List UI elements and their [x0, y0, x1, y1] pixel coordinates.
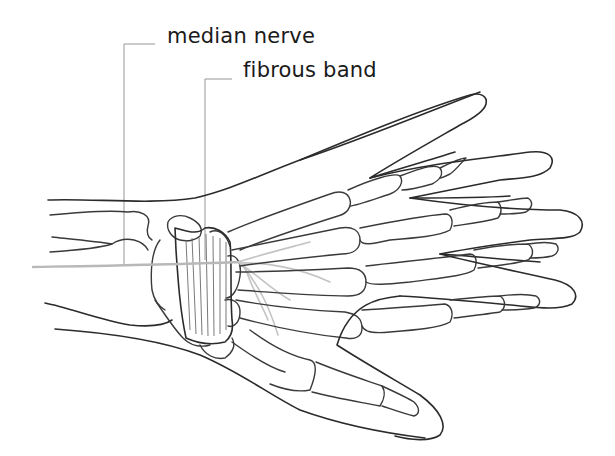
leader-line-median-nerve	[124, 44, 155, 265]
hand-anatomy-diagram: median nerve fibrous band	[0, 0, 615, 456]
median-nerve	[33, 242, 330, 335]
leader-line-fibrous-band	[205, 79, 232, 260]
finger-ring	[366, 198, 582, 284]
metacarpal-bones	[228, 192, 366, 372]
median-nerve-label: median nerve	[167, 24, 315, 48]
fibrous-band	[175, 228, 233, 344]
fibrous-band-label: fibrous band	[243, 58, 377, 82]
thumb	[250, 296, 443, 440]
finger-little	[362, 254, 576, 333]
